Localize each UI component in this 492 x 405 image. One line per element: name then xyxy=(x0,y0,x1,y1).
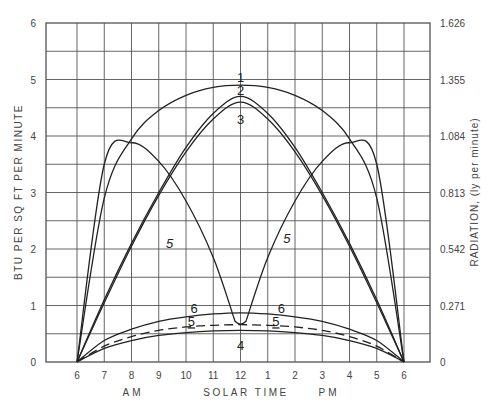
x-tick: 3 xyxy=(319,370,325,381)
x-axis-title: SOLAR TIME xyxy=(203,387,288,398)
x-tick: 7 xyxy=(101,370,107,381)
y-tick-right: 0.271 xyxy=(440,301,465,312)
y-axis-right-ticks: 00.2710.5420.8131.0841.3551.626 xyxy=(440,18,465,368)
x-tick: 4 xyxy=(347,370,353,381)
x-tick: 11 xyxy=(208,370,219,381)
x-tick: 2 xyxy=(292,370,298,381)
y-axis-left-ticks: 0123456 xyxy=(30,18,36,368)
curve-label: 5 xyxy=(272,314,279,329)
am-label: AM xyxy=(123,387,144,398)
x-axis-ticks: 6789101112123456 xyxy=(74,370,407,381)
y-tick-left: 4 xyxy=(30,131,36,142)
y-tick-left: 3 xyxy=(30,188,36,199)
y-tick-right: 0.542 xyxy=(440,244,465,255)
pm-label: PM xyxy=(319,387,340,398)
y-tick-left: 6 xyxy=(30,18,36,29)
x-tick: 10 xyxy=(180,370,192,381)
solar-radiation-chart: 1235566554 0123456 00.2710.5420.8131.084… xyxy=(0,0,492,405)
x-tick: 5 xyxy=(374,370,380,381)
curve-labels: 1235566554 xyxy=(166,70,291,353)
y-tick-left: 5 xyxy=(30,75,36,86)
curve-label: 4 xyxy=(237,338,244,353)
y-tick-left: 1 xyxy=(30,301,36,312)
x-tick: 6 xyxy=(401,370,407,381)
y-tick-right: 1.355 xyxy=(440,75,465,86)
x-tick: 6 xyxy=(74,370,80,381)
y-tick-right: 1.626 xyxy=(440,18,465,29)
curve-label: 2 xyxy=(237,83,244,98)
x-tick: 9 xyxy=(156,370,162,381)
y-axis-left-title: BTU PER SQ FT PER MINUTE xyxy=(13,104,24,280)
y-tick-right: 0.813 xyxy=(440,188,465,199)
curve-label: 5 xyxy=(188,314,195,329)
x-tick: 8 xyxy=(129,370,135,381)
curve-label: 5 xyxy=(283,231,291,246)
y-tick-left: 2 xyxy=(30,244,36,255)
curve-label: 3 xyxy=(237,112,244,127)
x-tick: 1 xyxy=(265,370,271,381)
y-tick-right: 1.084 xyxy=(440,131,465,142)
curve-label: 5 xyxy=(166,236,174,251)
y-axis-right-title: RADIATION, (ly per minute) xyxy=(469,117,480,266)
y-tick-left: 0 xyxy=(30,357,36,368)
x-tick: 12 xyxy=(235,370,247,381)
y-tick-right: 0 xyxy=(440,357,446,368)
